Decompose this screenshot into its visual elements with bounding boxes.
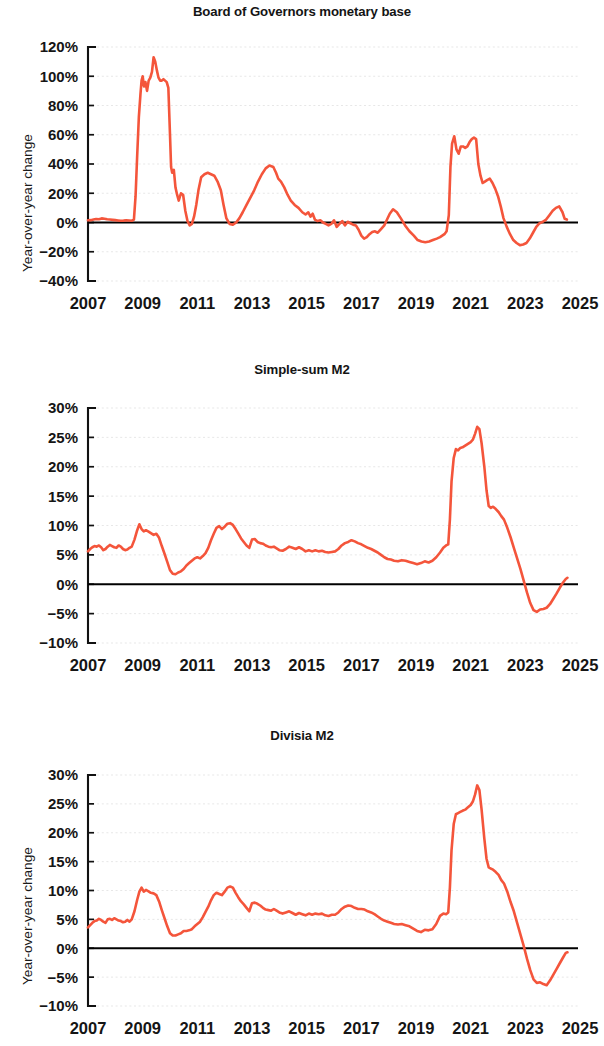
chart-panel-simple-sum-m2: Simple-sum M2 Year-over-year change −10%… — [0, 350, 604, 698]
y-tick-label: 30% — [48, 766, 78, 783]
y-tick-label: −20% — [39, 243, 78, 260]
x-tick-label: 2009 — [124, 1019, 161, 1037]
plot-area-0: −40%−20%0%20%40%60%80%100%120%2007200920… — [0, 0, 604, 348]
x-tick-label: 2021 — [452, 1019, 489, 1037]
y-tick-label: 5% — [56, 546, 78, 563]
x-tick-label: 2021 — [452, 656, 489, 674]
chart-panel-divisia-m2: Divisia M2 Year-over-year change −10%−5%… — [0, 700, 604, 1046]
plot-area-1: −10%−5%0%5%10%15%20%25%30%20072009201120… — [0, 350, 604, 698]
x-tick-label: 2019 — [398, 656, 435, 674]
x-tick-label: 2015 — [288, 656, 325, 674]
x-tick-label: 2013 — [234, 1019, 271, 1037]
x-tick-label: 2007 — [70, 294, 107, 312]
x-tick-label: 2011 — [179, 1019, 215, 1037]
y-tick-label: 120% — [40, 38, 78, 55]
y-tick-label: −10% — [39, 997, 78, 1014]
y-tick-label: 80% — [48, 97, 78, 114]
y-tick-label: 15% — [48, 853, 78, 870]
x-tick-label: 2009 — [124, 294, 161, 312]
y-tick-label: 15% — [48, 488, 78, 505]
plot-area-2: −10%−5%0%5%10%15%20%25%30%20072009201120… — [0, 700, 604, 1046]
x-tick-label: 2011 — [179, 656, 215, 674]
x-tick-label: 2013 — [234, 294, 271, 312]
y-tick-label: 20% — [48, 824, 78, 841]
y-tick-label: 10% — [48, 882, 78, 899]
y-tick-label: 30% — [48, 399, 78, 416]
x-tick-label: 2025 — [562, 1019, 599, 1037]
y-tick-label: 0% — [56, 940, 78, 957]
y-tick-label: −5% — [48, 969, 78, 986]
x-tick-label: 2023 — [507, 294, 544, 312]
y-tick-label: 40% — [48, 155, 78, 172]
x-tick-label: 2017 — [343, 1019, 380, 1037]
y-tick-label: −40% — [39, 272, 78, 289]
x-tick-label: 2025 — [562, 656, 599, 674]
x-tick-label: 2025 — [562, 294, 599, 312]
x-tick-label: 2019 — [398, 294, 435, 312]
x-tick-label: 2009 — [124, 656, 161, 674]
y-tick-label: 25% — [48, 429, 78, 446]
x-tick-label: 2021 — [452, 294, 489, 312]
y-tick-label: −5% — [48, 605, 78, 622]
x-tick-label: 2019 — [398, 1019, 435, 1037]
monetary-aggregates-figure: Board of Governors monetary base Year-ov… — [0, 0, 604, 1046]
x-tick-label: 2015 — [288, 1019, 325, 1037]
x-tick-label: 2023 — [507, 656, 544, 674]
x-tick-label: 2015 — [288, 294, 325, 312]
y-tick-label: 0% — [56, 214, 78, 231]
x-tick-label: 2007 — [70, 656, 107, 674]
series-line — [88, 57, 567, 245]
y-tick-label: 0% — [56, 576, 78, 593]
y-tick-label: 100% — [40, 68, 78, 85]
y-tick-label: 25% — [48, 795, 78, 812]
x-tick-label: 2023 — [507, 1019, 544, 1037]
chart-panel-monetary-base: Board of Governors monetary base Year-ov… — [0, 0, 604, 348]
y-tick-label: 5% — [56, 911, 78, 928]
x-tick-label: 2011 — [179, 294, 215, 312]
x-tick-label: 2013 — [234, 656, 271, 674]
x-tick-label: 2017 — [343, 294, 380, 312]
y-tick-label: 20% — [48, 458, 78, 475]
x-tick-label: 2017 — [343, 656, 380, 674]
y-tick-label: 10% — [48, 517, 78, 534]
series-line — [88, 785, 567, 985]
y-tick-label: −10% — [39, 634, 78, 651]
y-tick-label: 60% — [48, 126, 78, 143]
x-tick-label: 2007 — [70, 1019, 107, 1037]
y-tick-label: 20% — [48, 185, 78, 202]
